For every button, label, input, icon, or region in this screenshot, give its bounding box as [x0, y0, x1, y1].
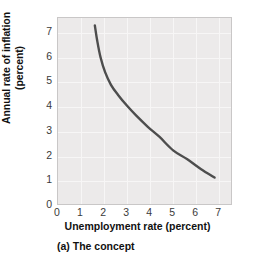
y-axis-tick-label: 3: [34, 125, 52, 136]
x-axis-tick-label: 0: [49, 206, 65, 219]
x-axis-tick-label: 1: [72, 206, 88, 219]
curve-path: [95, 25, 215, 177]
y-axis-title-line1: Annual rate of inflation: [0, 0, 13, 148]
x-axis-tick-label: 2: [95, 206, 111, 219]
x-axis-title: Unemployment rate (percent): [30, 220, 245, 232]
y-axis-tick-label: 1: [34, 174, 52, 185]
x-axis-tick-label: 3: [118, 206, 134, 219]
x-axis-tick-label: 5: [164, 206, 180, 219]
phillips-curve-figure: Annual rate of inflation (percent) 01234…: [0, 0, 264, 270]
y-axis-title-line2: (percent): [13, 0, 26, 148]
x-axis-tick-label: 7: [210, 206, 226, 219]
y-axis-tick-label: 5: [34, 75, 52, 86]
plot-area: [57, 17, 232, 205]
x-axis-tick-label: 6: [187, 206, 203, 219]
figure-caption: (a) The concept: [57, 240, 135, 252]
x-axis-tick-labels: 01234567: [0, 206, 264, 220]
y-axis-tick-label: 7: [34, 26, 52, 37]
phillips-curve-line: [58, 18, 232, 205]
x-axis-tick-label: 4: [141, 206, 157, 219]
y-axis-tick-label: 2: [34, 150, 52, 161]
y-axis-tick-label: 6: [34, 51, 52, 62]
y-axis-tick-label: 4: [34, 100, 52, 111]
